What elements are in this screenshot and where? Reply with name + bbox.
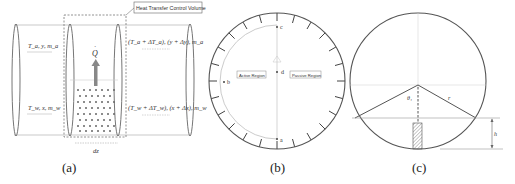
point-a [276, 138, 278, 140]
heat-arrow-head [92, 59, 101, 66]
inlet-water-label: T_w, x, m_w [28, 104, 61, 111]
point-c [276, 26, 278, 28]
dz-label: dz [93, 147, 99, 154]
right-radius [418, 85, 476, 118]
control-volume-label: Heat Transfer Control Volume [136, 5, 206, 11]
left-radius [355, 85, 418, 118]
point-d-label: d [281, 69, 284, 75]
caption-a: (a) [62, 160, 76, 176]
theta-label: θ₁ [407, 95, 412, 101]
h-label: h [494, 131, 497, 137]
outlet-water-label: (T_w + ΔT_w), (x + Δx), m_w [128, 104, 207, 112]
point-b [223, 81, 225, 83]
panel-a: Heat Transfer Control Volume Q · T_a, y,… [12, 2, 207, 154]
point-b-label: b [227, 79, 230, 85]
point-a-label: a [280, 137, 283, 143]
active-region-label: Active Region [239, 73, 266, 78]
point-d [276, 71, 278, 73]
panel-c: h θ₁ r [350, 13, 503, 149]
r-label: r [448, 95, 451, 101]
panel-b: c d b a Active Region Passive Region [209, 13, 345, 149]
svg-text:·: · [94, 43, 96, 51]
outlet-air-label: (T_a + ΔT_a), (y + Δy), m_a [128, 38, 203, 46]
inlet-ellipse [12, 24, 20, 136]
inlet-air-label: T_a, y, m_a [28, 42, 58, 49]
particle-dots [77, 89, 115, 132]
caption-c: (c) [412, 160, 426, 176]
passive-region-label: Passive Region [292, 73, 322, 78]
figure-canvas: Heat Transfer Control Volume Q · T_a, y,… [0, 0, 515, 184]
point-c-label: c [280, 24, 283, 30]
caption-b: (b) [270, 160, 285, 176]
heat-arrow-shaft [94, 64, 98, 86]
hatched-element [413, 123, 422, 149]
